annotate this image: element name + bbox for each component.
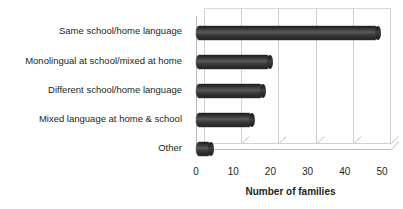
bar [196,84,263,98]
bar-end-cap [249,113,255,127]
value-axis-tick-label: 30 [302,166,313,178]
value-axis-ticks: 01020304050 [190,166,391,180]
value-axis-tick-label: 50 [376,166,387,178]
category-label: Different school/home language [48,85,182,95]
value-axis-tick-label: 0 [193,166,199,178]
category-label: Monolingual at school/mixed at home [25,56,182,66]
value-axis-tick-label: 40 [339,166,350,178]
category-label: Mixed language at home & school [39,114,182,124]
bar-chart: Same school/home language Monolingual at… [0,0,403,209]
bar-end-cap [375,26,381,40]
value-axis-tick-label: 10 [228,166,239,178]
category-label: Same school/home language [59,26,182,36]
plot-back-wall-bottom-edge [204,143,391,144]
category-axis-labels: Same school/home language Monolingual at… [0,0,186,160]
bar-end-cap [260,84,266,98]
bar-end-cap [267,55,273,69]
bar-end-cap [208,142,214,156]
category-label: Other [158,143,182,153]
x-axis-title: Number of families [190,186,391,197]
bar [196,55,270,69]
bar [196,26,378,40]
category-axis-line [196,149,391,150]
plot-back-wall-top-edge [204,8,391,9]
gridline [390,8,391,144]
bar [196,113,252,127]
plot-area [190,8,391,160]
value-axis-tick-label: 20 [265,166,276,178]
bar [196,142,211,156]
